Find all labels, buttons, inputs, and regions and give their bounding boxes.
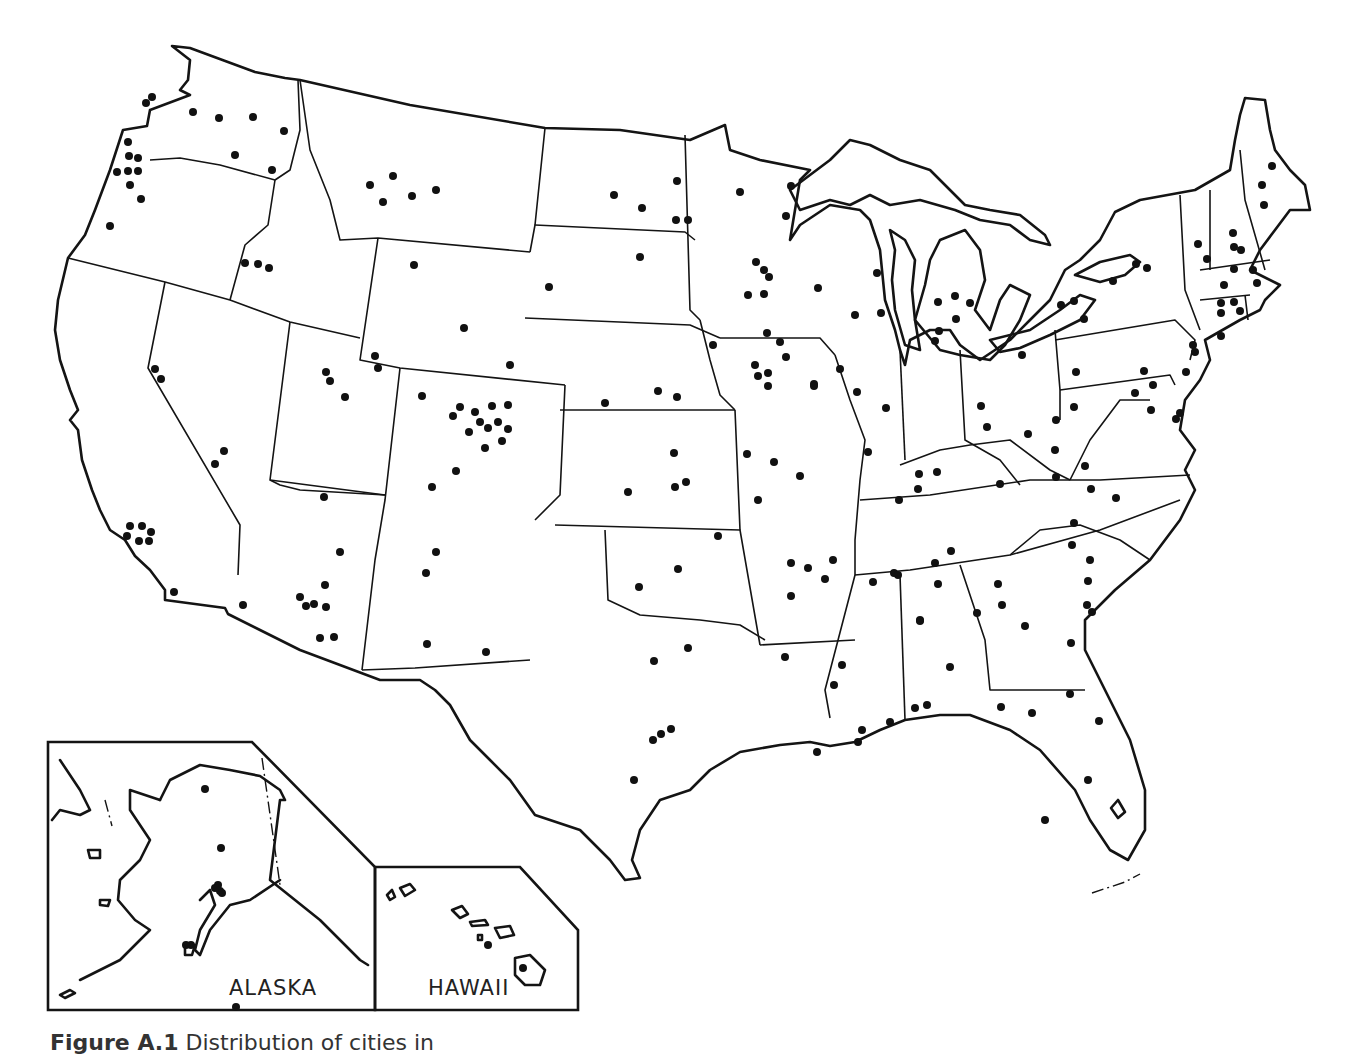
city-dot [148,93,156,101]
city-dot [374,364,382,372]
city-dot [649,736,657,744]
city-dot [494,418,502,426]
city-dot [934,580,942,588]
city-dot [1067,639,1075,647]
city-dot [389,172,397,180]
city-dot [341,393,349,401]
city-dot [682,478,690,486]
city-dot [1070,519,1078,527]
city-dot [836,365,844,373]
city-dot [763,329,771,337]
city-dot [1143,264,1151,272]
city-dot [782,353,790,361]
city-dot [545,283,553,291]
city-dot [673,393,681,401]
city-dot [1021,622,1029,630]
city-dot [923,701,931,709]
city-dot [322,368,330,376]
city-dot [452,467,460,475]
city-dot [1132,260,1140,268]
city-dot [1051,446,1059,454]
city-dot [1230,265,1238,273]
city-dot [504,401,512,409]
city-dot [519,964,527,972]
city-dot [218,889,226,897]
city-dot [770,458,778,466]
lake-okeechobee [1111,800,1125,818]
city-dot [1182,368,1190,376]
city-dot [1268,162,1276,170]
city-dot [220,447,228,455]
city-dot [310,600,318,608]
city-dot [670,449,678,457]
city-dot [1147,406,1155,414]
city-dot [460,324,468,332]
city-dot [147,528,155,536]
city-dot [886,718,894,726]
city-dot [151,365,159,373]
city-dot [947,547,955,555]
city-dot [432,548,440,556]
city-dot [934,298,942,306]
city-dot [484,941,492,949]
city-dot [211,884,219,892]
city-dot [1217,332,1225,340]
city-dot [916,617,924,625]
city-dot [1070,403,1078,411]
city-dot [488,402,496,410]
city-dot [1080,315,1088,323]
city-dot [215,114,223,122]
city-dot [754,372,762,380]
city-dot [764,369,772,377]
city-dot [134,154,142,162]
city-dot [810,382,818,390]
city-dot [914,485,922,493]
city-dot [864,448,872,456]
city-dot [1088,608,1096,616]
city-dot [657,730,665,738]
city-dot [1057,301,1065,309]
city-dot [1203,255,1211,263]
city-dot [630,776,638,784]
city-dot [671,483,679,491]
city-dot [239,601,247,609]
city-dot [481,444,489,452]
city-dot [366,181,374,189]
city-dot [1072,368,1080,376]
city-dot [268,166,276,174]
city-dot [781,653,789,661]
city-dot [482,648,490,656]
figure-caption-label: Figure A.1 [50,1030,179,1055]
city-dot [280,127,288,135]
city-dot [873,269,881,277]
city-dot [1066,690,1074,698]
city-dot [1028,709,1036,717]
city-dot [709,341,717,349]
city-dot [126,181,134,189]
city-dot [877,309,885,317]
city-dot [1258,181,1266,189]
city-dot [1109,277,1117,285]
city-dot [1260,201,1268,209]
city-dot [776,338,784,346]
city-dot [408,192,416,200]
city-dot [650,657,658,665]
city-dot [138,522,146,530]
city-dot [764,382,772,390]
city-dot [231,151,239,159]
figure-caption: Figure A.1 Distribution of cities in [50,1030,434,1055]
city-dot [997,703,1005,711]
city-dot [432,186,440,194]
city-dot [134,167,142,175]
city-dot [752,258,760,266]
city-dot [973,609,981,617]
city-dot [1086,556,1094,564]
figure-caption-text: Distribution of cities in [186,1030,435,1055]
city-dot [1041,816,1049,824]
city-dot [952,315,960,323]
city-dot [125,152,133,160]
city-dot [249,113,257,121]
city-dot [316,634,324,642]
city-dot [977,402,985,410]
